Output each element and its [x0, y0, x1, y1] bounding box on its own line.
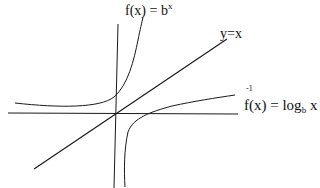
logarithm-label-base: f(x) = log	[244, 97, 302, 113]
exponential-label-base: f(x) = b	[125, 3, 168, 18]
graph-diagram: f(x) = bx y=x -1 f(x) = logb x	[0, 0, 320, 188]
identity-label: y=x	[220, 27, 242, 41]
inverse-marker: -1	[246, 85, 253, 93]
logarithm-curve	[124, 95, 235, 187]
exponential-curve	[15, 17, 143, 106]
logarithm-label: f(x) = logb x	[244, 98, 317, 113]
identity-line	[34, 39, 227, 169]
exponential-label-exponent: x	[168, 1, 173, 11]
y-axis	[114, 24, 118, 188]
exponential-label: f(x) = bx	[125, 4, 172, 18]
logarithm-label-subscript: b	[302, 105, 307, 115]
x-axis	[8, 113, 238, 114]
graph-canvas	[0, 0, 320, 188]
logarithm-label-variable: x	[306, 97, 317, 113]
